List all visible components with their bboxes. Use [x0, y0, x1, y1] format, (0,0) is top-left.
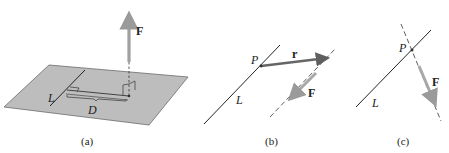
- axis-label-a: L: [47, 91, 55, 105]
- force-label-b: F: [308, 86, 315, 100]
- axis-label-b: L: [235, 93, 243, 107]
- axis-label-c: L: [371, 96, 379, 110]
- force-arrow-c: [419, 66, 433, 99]
- panel-a: L D F (a): [4, 20, 188, 148]
- point-p-c: [411, 49, 414, 52]
- panel-c: P L F (c): [356, 24, 441, 148]
- distance-label: D: [87, 103, 97, 117]
- point-label-b: P: [250, 53, 259, 67]
- caption-a: (a): [81, 135, 94, 148]
- axis-line-b: [204, 45, 280, 124]
- caption-b: (b): [265, 135, 278, 148]
- force-label-a: F: [136, 24, 143, 38]
- moment-about-axis-figure: L D F (a) P r L F (b) P L F (c): [0, 0, 449, 153]
- position-vector-label: r: [292, 47, 298, 61]
- caption-c: (c): [397, 135, 410, 148]
- point-label-c: P: [398, 41, 407, 55]
- force-point-a: [128, 95, 131, 98]
- force-line-of-action-b: [270, 48, 336, 117]
- force-label-c: F: [432, 75, 439, 89]
- panel-b: P r L F (b): [204, 45, 336, 148]
- point-p-b: [260, 65, 263, 68]
